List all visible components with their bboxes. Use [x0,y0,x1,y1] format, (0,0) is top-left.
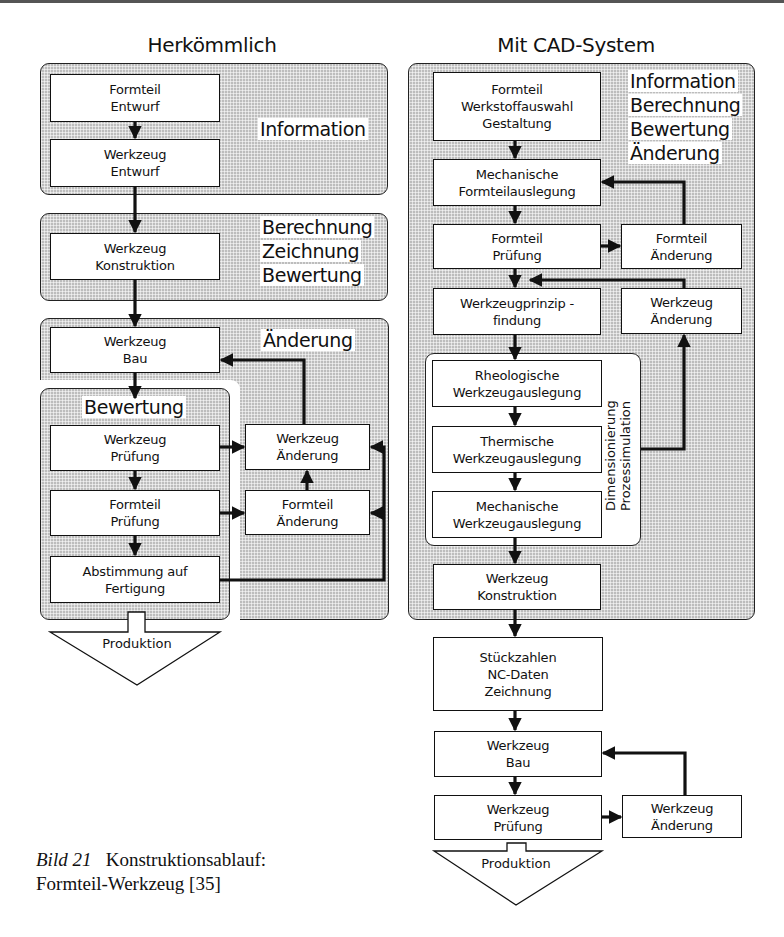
box-line: Prüfung [492,247,541,264]
caption-title: Konstruktionsablauf: [106,849,266,870]
box-line: Formteilauslegung [458,183,575,200]
box-line: findung [493,312,541,329]
box-abstimmung-fertigung: Abstimmung auf Fertigung [50,556,220,603]
panel-label-berechnung: Berechnung [260,216,374,238]
box-line: NC-Daten [487,666,548,683]
label-dimensionierung: Dimensionierung [603,401,618,512]
box-formteil-aenderung-cad: Formteil Änderung [621,224,742,269]
box-werkzeug-bau-cad: Werkzeug Bau [434,731,602,777]
box-mech-formteilauslegung: Mechanische Formteilauslegung [433,159,601,206]
right-produktion-label-top: Produktion [481,856,551,871]
box-line: Konstruktion [477,587,557,604]
box-line: Abstimmung auf [83,563,188,580]
subgroup-label: Dimensionierung Prozessimulation [603,376,633,536]
box-line: Werkzeug [487,801,550,818]
box-werkzeug-konstruktion-cad: Werkzeug Konstruktion [433,564,601,610]
box-line: Prüfung [110,513,159,530]
figure-caption: Bild 21 Konstruktionsablauf: Formteil-We… [36,848,266,896]
box-line: Änderung [651,311,713,328]
box-line: Werkzeug [486,570,549,587]
box-line: Entwurf [111,98,160,115]
produktion-arrow-right [434,843,602,905]
box-line: Entwurf [111,163,160,180]
box-line: Formteil [109,496,160,513]
box-werkzeug-aenderung-bottom: Werkzeug Änderung [622,795,742,838]
box-mechanische-wz: Mechanische Werkzeugauslegung [432,491,602,538]
left-produktion-label-top: Produktion [102,636,172,651]
panel-label-zeichnung: Zeichnung [260,240,361,262]
box-line: Änderung [651,817,713,834]
box-line: Mechanische [476,498,558,515]
box-line: Werkzeug [104,431,167,448]
caption-line2: Formteil-Werkzeug [35] [36,873,221,894]
box-formteil-entwurf: Formteil Entwurf [50,74,220,122]
box-line: Formteil [491,81,542,98]
panel-label-bewertung-left: Bewertung [82,396,186,418]
box-formteil-pruefung: Formteil Prüfung [50,490,220,536]
box-werkzeugprinzipfindung: Werkzeugprinzip - findung [433,288,601,335]
page-top-rule [0,0,784,3]
box-werkzeug-aenderung-left: Werkzeug Änderung [245,424,370,470]
box-line: Formteil [109,81,160,98]
panel-label-bewertung: Bewertung [260,264,364,286]
box-formteil-aenderung-left: Formteil Änderung [245,490,370,535]
cad-label-information: Information [628,70,738,92]
panel-label-information: Information [258,118,368,140]
box-line: Formteil [282,496,333,513]
box-line: Fertigung [105,580,165,597]
box-line: Thermische [480,433,554,450]
box-werkzeug-konstruktion: Werkzeug Konstruktion [50,233,220,280]
box-werkzeug-pruefung: Werkzeug Prüfung [50,425,220,471]
box-line: Prüfung [493,818,542,835]
box-line: Werkzeugauslegung [453,515,581,532]
right-column-title: Mit CAD-System [497,33,655,57]
box-line: Änderung [277,513,339,530]
box-line: Bau [506,754,531,771]
box-line: Stückzahlen [480,649,557,666]
box-werkzeug-pruefung-cad: Werkzeug Prüfung [434,795,602,840]
box-line: Werkzeug [487,737,550,754]
box-line: Formteil [491,230,542,247]
box-line: Konstruktion [95,257,175,274]
box-line: Werkzeug [650,294,713,311]
box-line: Werkzeugauslegung [453,384,581,401]
box-rheologische: Rheologische Werkzeugauslegung [432,360,602,407]
box-line: Formteil [656,230,707,247]
box-line: Rheologische [475,367,559,384]
box-line: Werkzeugauslegung [453,450,581,467]
box-thermische: Thermische Werkzeugauslegung [432,426,602,473]
box-line: Werkzeug [104,146,167,163]
box-line: Werkzeug [651,800,714,817]
box-line: Werkstoffauswahl [461,98,573,115]
cad-label-aenderung: Änderung [628,142,722,164]
box-line: Mechanische [476,166,558,183]
box-line: Änderung [277,447,339,464]
box-line: Werkzeug [104,333,167,350]
label-prozessimulation: Prozessimulation [618,401,633,511]
box-formteil-pruefung-cad: Formteil Prüfung [433,224,601,269]
caption-label: Bild 21 [36,849,91,870]
left-column-title: Herkömmlich [147,33,276,57]
box-werkzeug-bau: Werkzeug Bau [50,327,220,373]
box-line: Werkzeug [276,430,339,447]
box-werkzeug-entwurf: Werkzeug Entwurf [50,139,220,187]
box-werkzeug-aenderung-cad: Werkzeug Änderung [621,288,742,334]
box-line: Prüfung [110,448,159,465]
box-formteil-gestaltung: Formteil Werkstoffauswahl Gestaltung [433,72,601,141]
box-line: Werkzeug [104,240,167,257]
panel-label-aenderung: Änderung [261,329,355,351]
cad-label-berechnung: Berechnung [628,94,742,116]
box-line: Zeichnung [484,683,551,700]
box-stueckzahlen: Stückzahlen NC-Daten Zeichnung [433,637,603,711]
box-line: Bau [123,350,148,367]
box-line: Gestaltung [482,115,551,132]
cad-label-bewertung: Bewertung [628,118,732,140]
box-line: Werkzeugprinzip - [460,295,574,312]
box-line: Änderung [651,247,713,264]
